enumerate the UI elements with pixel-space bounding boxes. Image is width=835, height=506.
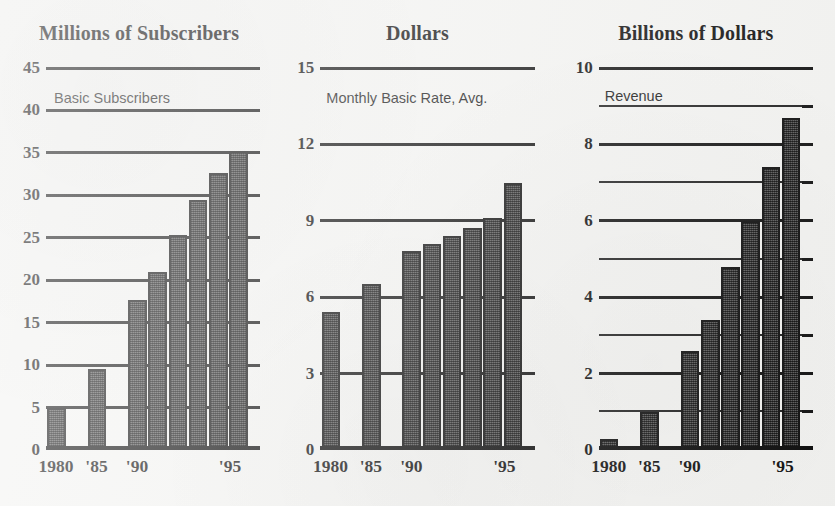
y-axis-tick-label: 40: [2, 100, 40, 120]
x-axis-tick-label: '95: [493, 456, 515, 477]
x-axis-tick-label: 1980: [39, 456, 74, 477]
axis-layer: [46, 68, 260, 450]
y-axis-tick-label: 2: [555, 363, 593, 383]
panel-title: Billions of Dollars: [557, 22, 835, 45]
y-axis-tick-label: 3: [276, 363, 314, 383]
y-axis-tick-label: 6: [555, 210, 593, 230]
x-axis-baseline: [46, 446, 260, 450]
chart-panel-subscribers: Millions of Subscribers 4540353025201510…: [0, 0, 278, 506]
chart-panel-revenue: Billions of Dollars 1086420 Revenue 1980…: [557, 0, 835, 506]
x-axis-tick-label: '90: [678, 456, 700, 477]
plot-area: 15129630 Monthly Basic Rate, Avg. 1980'8…: [320, 68, 534, 450]
chart-panel-dollars: Dollars 15129630 Monthly Basic Rate, Avg…: [278, 0, 556, 506]
y-axis-tick-label: 35: [2, 142, 40, 162]
y-axis-tick-label: 30: [2, 185, 40, 205]
x-axis-tick-label: '85: [360, 456, 382, 477]
y-axis-tick-label: 9: [276, 210, 314, 230]
y-axis-tick-label: 45: [2, 58, 40, 78]
series-label: Monthly Basic Rate, Avg.: [326, 90, 487, 106]
y-axis-tick-label: 8: [555, 134, 593, 154]
y-axis-tick-label: 0: [555, 440, 593, 460]
x-axis-tick-label: '90: [400, 456, 422, 477]
y-axis-tick-label: 10: [2, 355, 40, 375]
x-axis-tick-label: '95: [771, 456, 793, 477]
panel-title: Millions of Subscribers: [0, 22, 278, 45]
x-axis-tick-label: '95: [219, 456, 241, 477]
x-axis-tick-label: 1980: [591, 456, 626, 477]
series-label: Basic Subscribers: [54, 90, 170, 106]
plot-area: 1086420 Revenue 1980'85'90'95: [599, 68, 813, 450]
x-axis-baseline: [599, 446, 813, 450]
y-axis-tick-label: 12: [276, 134, 314, 154]
x-axis-tick-label: '90: [126, 456, 148, 477]
chart-panel-group: Millions of Subscribers 4540353025201510…: [0, 0, 835, 506]
y-axis-tick-label: 6: [276, 287, 314, 307]
y-axis-tick-label: 10: [555, 58, 593, 78]
x-axis-labels: 1980'85'90'95: [599, 456, 813, 482]
x-axis-tick-label: '85: [638, 456, 660, 477]
x-axis-labels: 1980'85'90'95: [46, 456, 260, 482]
x-axis-labels: 1980'85'90'95: [320, 456, 534, 482]
y-axis-tick-label: 25: [2, 227, 40, 247]
y-axis-tick-label: 15: [2, 312, 40, 332]
axis-layer: [320, 68, 534, 450]
x-axis-baseline: [320, 446, 534, 450]
y-axis-tick-label: 0: [2, 440, 40, 460]
chart-page: Millions of Subscribers 4540353025201510…: [0, 0, 835, 506]
x-axis-tick-label: '85: [85, 456, 107, 477]
y-axis-tick-label: 15: [276, 58, 314, 78]
plot-area: 454035302520151050 Basic Subscribers 198…: [46, 68, 260, 450]
axis-layer: [599, 68, 813, 450]
panel-title: Dollars: [278, 22, 556, 45]
y-axis-tick-label: 0: [276, 440, 314, 460]
series-label: Revenue: [605, 88, 663, 104]
y-axis-tick-label: 5: [2, 397, 40, 417]
y-axis-tick-label: 20: [2, 270, 40, 290]
x-axis-tick-label: 1980: [313, 456, 348, 477]
y-axis-tick-label: 4: [555, 287, 593, 307]
